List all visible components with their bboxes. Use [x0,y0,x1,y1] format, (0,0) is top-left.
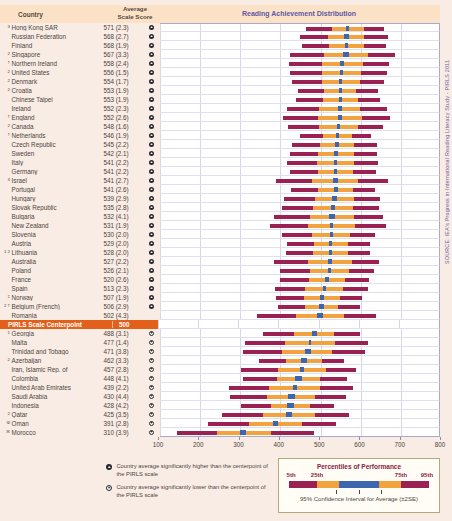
distribution-cell [160,356,441,365]
average-score: 530 (2.0) [104,231,144,238]
significance-cell: ▲ [144,250,160,256]
significantly-higher-icon: ▲ [149,61,155,67]
average-score: 552 (2.6) [104,114,144,121]
confidence-interval-segment [329,241,332,246]
percentile-segment [177,431,217,435]
confidence-interval-segment [338,106,342,111]
country-name: England [10,114,104,121]
table-row: Spain513 (2.3)▲ [0,284,440,293]
distribution-cell [160,95,441,104]
significantly-higher-icon: ▲ [149,151,155,157]
significantly-higher-icon: ▲ [149,88,155,94]
footnote-marker: 1 [0,330,10,335]
table-row: Slovenia530 (2.0)▲ [0,230,440,239]
percentile-segment [229,386,269,390]
distribution-cell [160,257,441,266]
significantly-higher-icon: ▲ [149,187,155,193]
table-row: Austria529 (2.0)▲ [0,239,440,248]
distribution-cell [160,284,441,293]
significance-cell: ▼ [144,394,160,400]
confidence-interval-segment [340,61,344,66]
country-name: Austria [10,240,104,247]
table-row: 2 †Belgium (French)506 (2.9)▲ [0,302,440,311]
percentile-label: 95th [421,472,433,478]
significantly-higher-icon: ▲ [149,97,155,103]
table-row: Hungary539 (2.9)▲ [0,194,440,203]
axis-tick-label: 700 [394,441,405,448]
significance-cell: ▲ [144,151,160,157]
percentile-segment [355,224,386,228]
confidence-interval-segment [332,196,337,201]
footnote-marker: 3 [0,24,10,29]
country-name: Norway [10,294,104,301]
average-score: 488 (3.1) [104,330,144,337]
country-name: Romania [10,312,104,319]
country-name: France [10,276,104,283]
table-row: Italy541 (2.2)▲ [0,158,440,167]
percentile-labels: 5th25th75th95th [279,472,439,480]
axis-tick-label: 200 [193,441,204,448]
significantly-lower-icon: ▼ [149,403,155,409]
average-score: 527 (2.2) [104,258,144,265]
distribution-cell [160,239,441,248]
country-name: Netherlands [10,132,104,139]
confidence-interval-segment [334,151,337,156]
average-score: 526 (2.1) [104,267,144,274]
significantly-higher-icon: ▲ [149,286,155,292]
significance-cell: ▲ [144,232,160,238]
confidence-interval-segment [287,403,294,408]
axis-tick [158,437,159,440]
table-row: 2Canada548 (1.6)▲ [0,122,440,131]
country-name: Azerbaijan [10,357,104,364]
significance-cell: ▲ [144,223,160,229]
distribution-cell [160,428,441,437]
confidence-interval-segment [330,232,333,237]
average-score: 541 (2.2) [104,168,144,175]
percentile-segment [356,89,377,93]
confidence-interval-segment [240,430,246,435]
average-score: 553 (1.9) [104,87,144,94]
axis-tick [279,437,280,440]
table-row: Romania502 (4.3) [0,311,440,320]
percentile-segment [289,62,321,66]
average-score: 477 (1.4) [104,339,144,346]
percentile-segment [280,278,308,282]
percentile-label: 5th [287,472,296,478]
country-name: Ireland [10,105,104,112]
distribution-cell [160,221,441,230]
significance-cell: ▲ [144,160,160,166]
percentile-segment [364,44,386,48]
average-score: 506 (2.9) [104,303,144,310]
table-row: 1Georgia488 (3.1)▼ [0,329,440,338]
significantly-higher-icon: ▲ [149,196,155,202]
significance-cell: ▲ [144,286,160,292]
percentile-segment [362,116,391,120]
significance-cell: ▲ [144,88,160,94]
footnote-marker: 2 [0,123,10,128]
significantly-higher-icon: ▲ [149,160,155,166]
average-score: 541 (2.7) [104,177,144,184]
table-row: Germany541 (2.2)▲ [0,167,440,176]
percentile-segment [208,422,250,426]
percentile-segment [340,296,363,300]
average-score: 541 (2.2) [104,159,144,166]
confidence-interval-segment [300,367,304,372]
percentile-segment [259,359,287,363]
significance-cell: ▲ [144,79,160,85]
percentile-segment [263,332,294,336]
average-score: 507 (1.9) [104,294,144,301]
percentile-segment [334,332,360,336]
significantly-lower-icon: ▼ [149,331,155,337]
significance-cell: ▲ [144,34,160,40]
percentile-segment [292,80,322,84]
centerpoint-score: 500 [112,321,130,328]
percentile-segment [343,287,368,291]
table-row: 2Qatar425 (3.5)▼ [0,410,440,419]
percentile-segment [278,305,304,309]
significantly-lower-icon: ▼ [149,394,155,400]
average-score: 548 (1.6) [104,123,144,130]
percentile-segment [310,404,335,408]
legend-higher-text: Country average significantly higher tha… [116,463,268,478]
significance-cell: ▲ [144,205,160,211]
country-name: Indonesia [10,402,104,409]
